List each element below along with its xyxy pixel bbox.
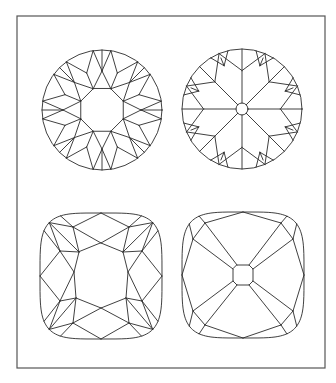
facet-edge xyxy=(101,308,129,323)
facet-edge xyxy=(199,325,205,334)
facet-edge xyxy=(249,285,281,325)
facet-edge xyxy=(193,239,233,269)
facet-edge xyxy=(243,212,281,223)
culet xyxy=(233,265,253,285)
facet-edge xyxy=(60,251,74,272)
facet-edge xyxy=(60,68,75,83)
facet-edge xyxy=(43,110,63,119)
facet-edge xyxy=(142,301,158,321)
facet-edge xyxy=(101,323,129,339)
facet-edge xyxy=(117,147,137,158)
facet-edge xyxy=(87,131,94,147)
facet-edge xyxy=(73,298,76,323)
cushion-octagon-culet-cut xyxy=(182,212,304,338)
facet-edge xyxy=(123,110,141,119)
facet-edge xyxy=(246,67,284,105)
facet-edge xyxy=(123,119,139,126)
facet-edge xyxy=(66,147,86,158)
facet-edge xyxy=(123,101,141,110)
facet-edge xyxy=(73,323,101,339)
facet-edge xyxy=(74,82,93,88)
facet-edge xyxy=(293,224,297,239)
facet-edge xyxy=(40,251,60,276)
facet-edge xyxy=(123,223,153,252)
facet-edge xyxy=(281,325,287,334)
facet-edge xyxy=(102,51,111,71)
facet-edge xyxy=(126,298,129,323)
facet-edge xyxy=(102,71,111,89)
facet-edge xyxy=(142,251,162,276)
facet-edge xyxy=(74,82,80,101)
facet-edge xyxy=(189,311,193,326)
facet-edge xyxy=(60,272,74,301)
facet-edge xyxy=(193,223,205,239)
facet-edge xyxy=(87,51,93,73)
facet-edge xyxy=(123,95,139,102)
facet-edge xyxy=(281,216,287,223)
facet-edge xyxy=(101,213,129,227)
facet-edge xyxy=(101,227,129,243)
facet-edge xyxy=(249,223,281,265)
facet-edge xyxy=(205,285,237,325)
facet-edge xyxy=(187,82,215,86)
facet-edge xyxy=(141,101,161,110)
facet-edge xyxy=(269,132,297,136)
facet-edge xyxy=(111,51,117,73)
facet-edge xyxy=(43,101,63,110)
cushion-open-table-cut xyxy=(40,213,162,339)
facet-edge xyxy=(243,325,281,338)
facet-edge xyxy=(65,119,81,126)
facet-edge xyxy=(66,62,86,73)
round-old-european-cut xyxy=(42,50,162,170)
facet-edge xyxy=(200,113,238,151)
facet-edge xyxy=(199,216,205,223)
facet-edge xyxy=(246,113,284,151)
facet-edge xyxy=(54,125,65,145)
facet-edge xyxy=(111,147,117,169)
facet-edge xyxy=(139,74,150,94)
facet-edge xyxy=(73,308,101,323)
facet-edge xyxy=(142,301,153,329)
figure-frame xyxy=(17,16,325,368)
facet-edge xyxy=(73,213,101,227)
facet-edge xyxy=(205,325,243,338)
facet-edge xyxy=(142,231,158,251)
facet-edge xyxy=(87,73,94,89)
facet-edge xyxy=(265,136,269,164)
facet-edge xyxy=(93,51,102,71)
facet-edge xyxy=(93,131,102,149)
facet-edge xyxy=(123,119,129,138)
facet-edge xyxy=(193,281,233,311)
facet-edge xyxy=(44,231,60,251)
facet-edge xyxy=(130,138,145,153)
facet-edge xyxy=(293,275,304,311)
facet-edge xyxy=(187,132,215,136)
facet-edge xyxy=(293,239,304,275)
facet-edge xyxy=(142,223,153,251)
facet-edge xyxy=(44,301,60,321)
facet-edge xyxy=(281,223,293,239)
facet-edge xyxy=(117,62,137,73)
facet-edge xyxy=(123,82,129,101)
facet-edge xyxy=(111,73,118,89)
facet-edge xyxy=(139,119,161,125)
facet-edge xyxy=(111,131,130,137)
facet-edge xyxy=(54,74,65,94)
gem-facet-diagram xyxy=(0,0,336,383)
facet-edge xyxy=(193,311,205,325)
table-facet xyxy=(81,89,124,132)
facet-edge xyxy=(293,311,297,326)
facet-edge xyxy=(73,227,101,243)
facet-edge xyxy=(182,239,193,275)
facet-edge xyxy=(111,82,130,88)
facet-edge xyxy=(63,110,81,119)
facet-edge xyxy=(43,95,65,101)
facet-edge xyxy=(253,239,293,269)
facet-edge xyxy=(128,272,142,301)
facet-edge xyxy=(215,136,219,164)
facet-edge xyxy=(74,119,80,138)
facet-edge xyxy=(60,138,75,153)
facet-edge xyxy=(253,281,293,311)
facet-edge xyxy=(130,68,145,83)
facet-edge xyxy=(93,71,102,89)
